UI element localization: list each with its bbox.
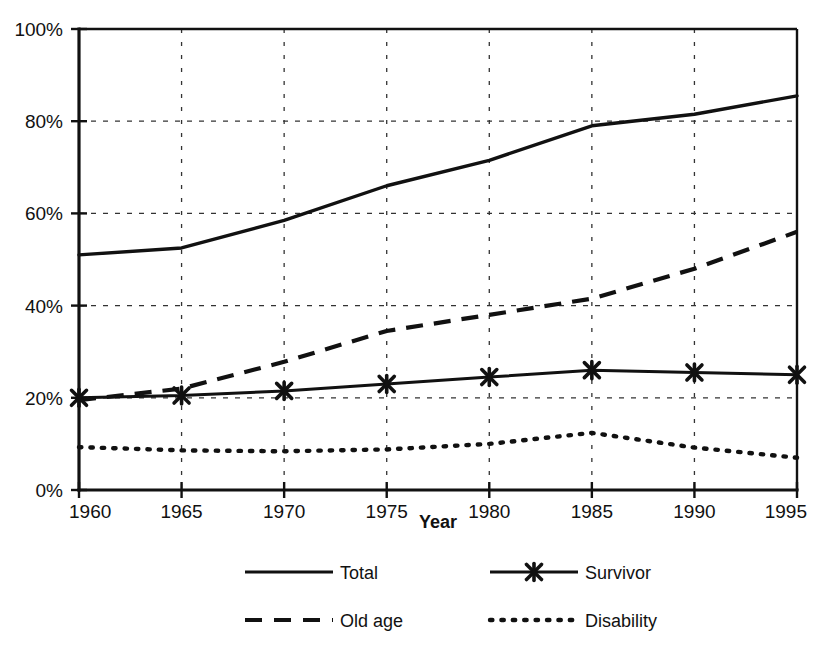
x-tick-label: 1975 [366,501,408,522]
x-tick-label: 1960 [69,501,111,522]
x-tick-label: 1965 [160,501,202,522]
legend-item-old-age: Old age [245,611,403,631]
legend-label: Disability [585,611,657,631]
y-axis-tick-labels: 0%20%40%60%80%100% [14,19,63,501]
line-chart: 0%20%40%60%80%100% 196019651970197519801… [0,0,838,663]
legend-item-total: Total [245,563,378,583]
y-tick-label: 80% [25,111,63,132]
y-tick-label: 60% [25,203,63,224]
y-tick-label: 40% [25,296,63,317]
x-tick-label: 1980 [468,501,510,522]
x-tick-label: 1995 [765,501,807,522]
x-tick-label: 1990 [673,501,715,522]
x-tick-label: 1985 [571,501,613,522]
legend-item-disability: Disability [490,611,657,631]
legend-label: Total [340,563,378,583]
chart-container: 0%20%40%60%80%100% 196019651970197519801… [0,0,838,663]
legend-item-survivor: Survivor [490,563,651,583]
legend-label: Survivor [585,563,651,583]
y-tick-label: 20% [25,388,63,409]
legend-label: Old age [340,611,403,631]
plot-background [79,29,797,490]
y-tick-label: 0% [36,480,64,501]
chart-legend: TotalSurvivorOld ageDisability [245,563,657,631]
x-tick-label: 1970 [263,501,305,522]
x-axis-title: Year [419,512,457,532]
y-tick-label: 100% [14,19,63,40]
